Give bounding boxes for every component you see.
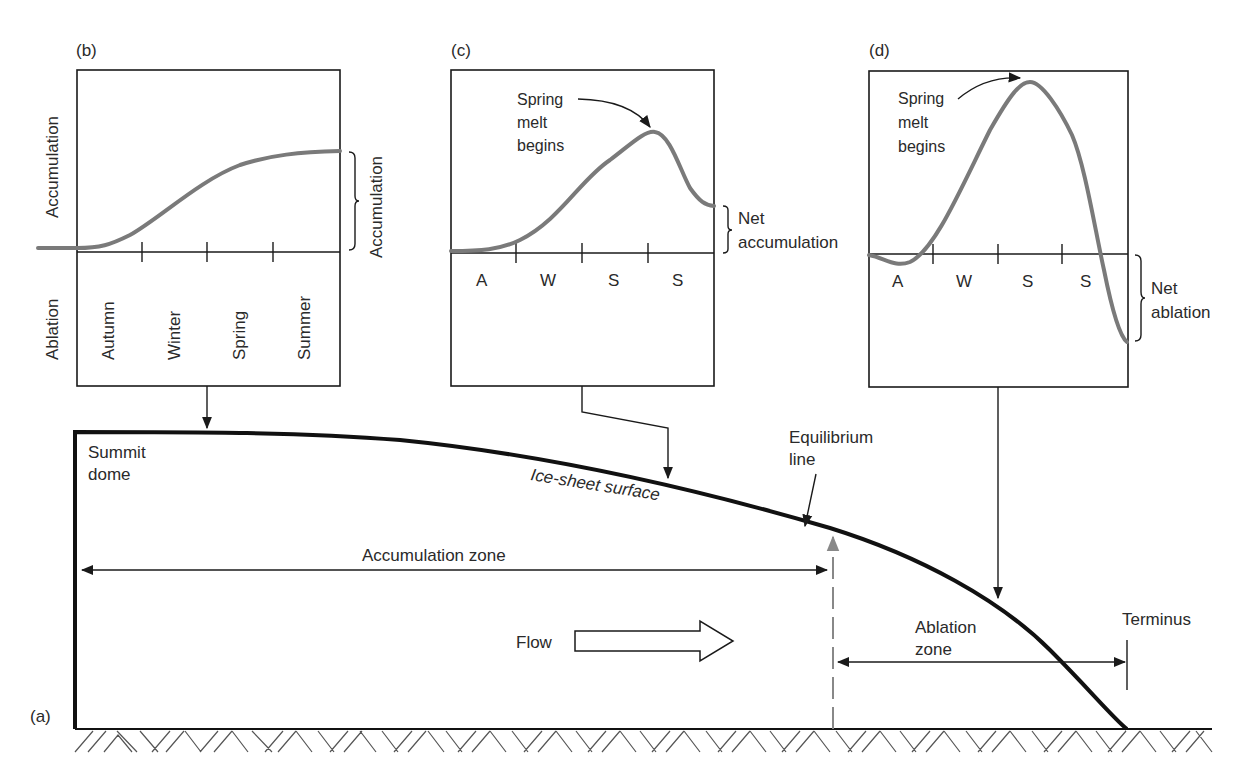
annotation-text: begins (898, 138, 945, 155)
panel-b-y-ablation-label: Ablation (43, 299, 62, 360)
panel-b: (b) Accumulation Ablation Autumn Winter … (38, 41, 386, 428)
panel-c-frame (451, 70, 714, 386)
season-label: Spring (230, 311, 249, 360)
panel-b-mass-curve (38, 151, 340, 248)
panel-c-bracket-label: accumulation (738, 233, 838, 252)
connector-arrow (582, 386, 668, 478)
season-label: Autumn (99, 301, 118, 360)
equilibrium-label: Equilibrium (789, 428, 873, 447)
panel-d-label: (d) (869, 41, 890, 60)
annotation-text: melt (517, 114, 548, 131)
season-label: S (1080, 272, 1091, 291)
summit-label: Summit (88, 443, 146, 462)
season-label: Summer (295, 295, 314, 360)
annotation-text: Spring (898, 90, 944, 107)
brace-icon (723, 206, 732, 253)
annotation-text: begins (517, 137, 564, 154)
accumulation-zone-label: Accumulation zone (362, 546, 506, 565)
season-label: S (672, 271, 683, 290)
flow-arrow-icon (575, 621, 733, 661)
equilibrium-pointer-arrow (805, 474, 816, 526)
panel-c-mass-curve (451, 132, 714, 251)
brace-icon (1135, 255, 1145, 341)
panel-c-label: (c) (451, 41, 471, 60)
panel-b-label: (b) (76, 41, 97, 60)
season-label: A (892, 272, 904, 291)
brace-icon (349, 152, 359, 250)
panel-c-bracket-label: Net (738, 209, 765, 228)
ablation-zone-label: zone (915, 640, 952, 659)
panel-b-bracket-label: Accumulation (367, 156, 386, 258)
season-label: S (1022, 272, 1033, 291)
panel-d: (d) Spring melt begins A W S S Net ablat… (869, 41, 1211, 598)
season-label: W (540, 271, 556, 290)
summit-label: dome (88, 465, 131, 484)
annotation-text: Spring (517, 91, 563, 108)
annotation-text: melt (898, 114, 929, 131)
ice-sheet-mass-balance-figure: (b) Accumulation Ablation Autumn Winter … (0, 0, 1260, 779)
bedrock-hatching (75, 731, 1212, 752)
panel-a: (a) Summit dome Ice-sheet surface Equili… (30, 428, 1212, 752)
panel-d-bracket-label: ablation (1151, 303, 1211, 322)
panel-b-y-accumulation-label: Accumulation (43, 116, 62, 218)
season-label: S (608, 271, 619, 290)
ablation-zone-label: Ablation (915, 618, 976, 637)
panel-c: (c) Spring melt begins A W S S Net accum… (451, 41, 838, 478)
flow-label: Flow (516, 633, 553, 652)
season-label: Winter (165, 311, 184, 360)
panel-a-label: (a) (30, 707, 51, 726)
annotation-arrow (578, 99, 650, 127)
panel-d-bracket-label: Net (1151, 279, 1178, 298)
terminus-label: Terminus (1122, 610, 1191, 629)
season-label: A (476, 271, 488, 290)
equilibrium-label: line (789, 450, 815, 469)
season-label: W (956, 272, 972, 291)
